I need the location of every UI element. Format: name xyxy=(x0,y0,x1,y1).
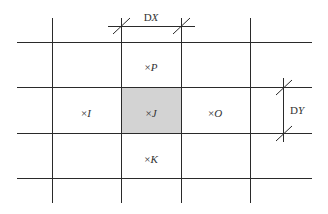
cell-label-o: ×O xyxy=(208,107,222,119)
cell-label-k: ×K xyxy=(144,153,158,165)
cell-label-p: ×P xyxy=(145,61,158,73)
dx-label: DX xyxy=(144,11,160,23)
grid-diagram: DX DY ×P ×I ×J ×O ×K xyxy=(0,0,328,214)
dy-label: DY xyxy=(290,104,306,116)
cell-label-i: ×I xyxy=(81,107,92,119)
cell-label-j: ×J xyxy=(145,107,157,119)
